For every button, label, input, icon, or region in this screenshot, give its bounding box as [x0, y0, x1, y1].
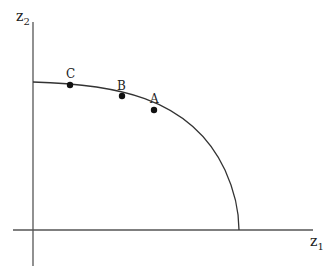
x-axis-label: z1: [310, 233, 324, 252]
point-b-label: B: [117, 79, 126, 93]
frontier-curve: [33, 82, 239, 230]
point-c: [67, 82, 73, 88]
point-b: [119, 93, 125, 99]
point-c-label: C: [66, 67, 75, 81]
y-axis-label: z2: [16, 8, 30, 27]
frontier-diagram: C B A z2 z1: [0, 0, 335, 276]
point-a: [151, 107, 157, 113]
point-a-label: A: [149, 92, 159, 106]
